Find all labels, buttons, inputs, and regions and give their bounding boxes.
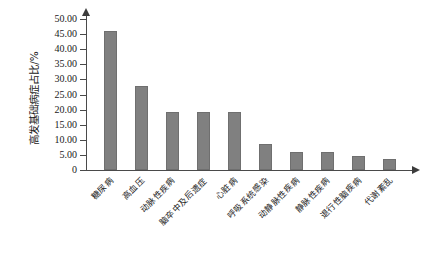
- x-axis-label: 糖尿病: [90, 176, 115, 201]
- y-axis-tick-label: 50.00: [31, 14, 77, 24]
- x-axis-label: 心脏病: [214, 176, 239, 201]
- y-axis-tick-label: 10.00: [31, 135, 77, 145]
- y-axis-tick-label: 5.00: [31, 150, 77, 160]
- x-axis-label: 高血压: [121, 176, 146, 201]
- bar: [197, 112, 210, 170]
- x-axis-labels: 糖尿病高血压动脉性疾病脑卒中及后遗症心脏病呼吸系统感染动静脉性疾病静脉性疾病退行…: [0, 170, 445, 262]
- bar: [166, 112, 179, 170]
- bar: [259, 144, 272, 170]
- bar: [104, 31, 117, 170]
- bar: [352, 156, 365, 170]
- y-axis-tick-label: 30.00: [31, 74, 77, 84]
- y-axis-tick-label: 45.00: [31, 29, 77, 39]
- y-axis-tick-label: 35.00: [31, 59, 77, 69]
- y-axis-tick-label: 25.00: [31, 90, 77, 100]
- bar: [228, 112, 241, 170]
- bar: [383, 159, 396, 170]
- bar-chart: 高发基础病症占比/% 50.0045.0040.0035.0030.0025.0…: [0, 0, 445, 262]
- bar: [321, 152, 334, 170]
- x-axis-label: 代谢紊乱: [363, 176, 395, 208]
- y-axis-tick-label: 40.00: [31, 44, 77, 54]
- y-axis-tick-label: 15.00: [31, 120, 77, 130]
- bar: [135, 86, 148, 170]
- bar: [290, 152, 303, 170]
- y-axis-tick-label: 20.00: [31, 105, 77, 115]
- y-axis-arrow-icon: [82, 8, 90, 16]
- bars-group: [86, 19, 413, 170]
